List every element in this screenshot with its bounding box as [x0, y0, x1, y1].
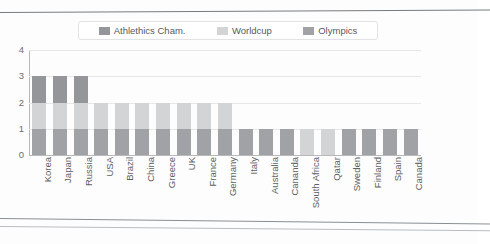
legend-swatch-icon [217, 27, 228, 35]
bar-segment[interactable] [94, 129, 108, 155]
page-rule-top [0, 10, 490, 13]
bar-slot[interactable] [29, 50, 50, 155]
stacked-bar[interactable] [362, 129, 376, 155]
bar-segment[interactable] [135, 103, 149, 129]
bar-segment[interactable] [135, 129, 149, 155]
bar-segment[interactable] [74, 76, 88, 102]
bar-segment[interactable] [53, 76, 67, 102]
bar-segment[interactable] [53, 129, 67, 155]
bar-segment[interactable] [259, 129, 273, 155]
stacked-bar[interactable] [300, 129, 314, 155]
legend-label: Athlethics Cham. [114, 26, 186, 36]
bar-segment[interactable] [74, 103, 88, 129]
stacked-bar[interactable] [239, 129, 253, 155]
bar-slot[interactable] [173, 50, 194, 155]
stacked-bar[interactable] [383, 129, 397, 155]
bar-segment[interactable] [383, 129, 397, 155]
bar-series-group [29, 50, 421, 155]
bar-segment[interactable] [74, 129, 88, 155]
legend-entry[interactable]: Olympics [303, 26, 357, 36]
bar-segment[interactable] [321, 129, 335, 155]
legend-swatch-icon [99, 27, 110, 35]
legend-label: Worldcup [232, 26, 272, 36]
bar-segment[interactable] [197, 129, 211, 155]
bar-segment[interactable] [239, 129, 253, 155]
x-axis-label-slot: Canada [400, 157, 421, 217]
stacked-bar[interactable] [94, 103, 108, 156]
bar-segment[interactable] [404, 129, 418, 155]
bar-segment[interactable] [53, 103, 67, 129]
x-axis-label-slot: Italy [235, 157, 256, 217]
x-axis-label-slot: Australia [256, 157, 277, 217]
bar-slot[interactable] [297, 50, 318, 155]
bar-segment[interactable] [94, 103, 108, 129]
bar-segment[interactable] [115, 103, 129, 129]
x-axis-label-slot: Finland [359, 157, 380, 217]
stacked-bar[interactable] [135, 103, 149, 156]
stacked-bar[interactable] [404, 129, 418, 155]
bar-slot[interactable] [318, 50, 339, 155]
bar-slot[interactable] [194, 50, 215, 155]
y-axis-tick-label: 4 [19, 45, 24, 55]
bar-segment[interactable] [156, 129, 170, 155]
stacked-bar[interactable] [280, 129, 294, 155]
y-axis-tick-label: 2 [19, 98, 24, 108]
bar-segment[interactable] [32, 129, 46, 155]
legend-entry[interactable]: Worldcup [217, 26, 272, 36]
page-rule-bottom-secondary [0, 226, 490, 231]
plot-area: 01234 [29, 50, 421, 155]
stacked-bar[interactable] [115, 103, 129, 156]
bar-slot[interactable] [338, 50, 359, 155]
bar-segment[interactable] [300, 129, 314, 155]
x-axis-label-slot: South Africa [297, 157, 318, 217]
bar-slot[interactable] [91, 50, 112, 155]
bar-slot[interactable] [400, 50, 421, 155]
bar-slot[interactable] [132, 50, 153, 155]
stacked-bar[interactable] [74, 76, 88, 155]
x-axis-label-slot: Spain [380, 157, 401, 217]
y-axis-tick-label: 0 [19, 150, 24, 160]
bar-segment[interactable] [362, 129, 376, 155]
stacked-bar[interactable] [53, 76, 67, 155]
stacked-bar[interactable] [342, 129, 356, 155]
bar-segment[interactable] [115, 129, 129, 155]
stacked-bar[interactable] [259, 129, 273, 155]
stacked-bar[interactable] [177, 103, 191, 156]
bar-segment[interactable] [156, 103, 170, 129]
legend-entry[interactable]: Athlethics Cham. [99, 26, 186, 36]
stacked-bar[interactable] [218, 103, 232, 156]
bar-segment[interactable] [218, 103, 232, 129]
x-axis-label-slot: Russia [70, 157, 91, 217]
y-axis-tick-label: 3 [19, 72, 24, 82]
stacked-bar[interactable] [156, 103, 170, 156]
x-axis-label-slot: France [194, 157, 215, 217]
bar-segment[interactable] [32, 103, 46, 129]
bar-slot[interactable] [153, 50, 174, 155]
bar-slot[interactable] [215, 50, 236, 155]
chart-legend: Athlethics Cham.WorldcupOlympics [78, 21, 378, 40]
bar-slot[interactable] [277, 50, 298, 155]
bar-slot[interactable] [359, 50, 380, 155]
bar-segment[interactable] [177, 129, 191, 155]
bar-slot[interactable] [70, 50, 91, 155]
bar-segment[interactable] [197, 103, 211, 129]
legend-swatch-icon [303, 27, 314, 35]
stacked-bar[interactable] [197, 103, 211, 156]
bar-slot[interactable] [380, 50, 401, 155]
bar-segment[interactable] [32, 76, 46, 102]
bar-slot[interactable] [50, 50, 71, 155]
bar-slot[interactable] [235, 50, 256, 155]
x-axis-label-slot: Qatar [318, 157, 339, 217]
bar-segment[interactable] [280, 129, 294, 155]
x-axis-label-slot: China [132, 157, 153, 217]
bar-segment[interactable] [218, 129, 232, 155]
stacked-bar[interactable] [321, 129, 335, 155]
bar-slot[interactable] [256, 50, 277, 155]
bar-segment[interactable] [342, 129, 356, 155]
legend-label: Olympics [318, 26, 357, 36]
x-axis-labels: KoreaJapanRussiaUSABrazilChinaGreeceUKFr… [29, 157, 421, 217]
bar-slot[interactable] [112, 50, 133, 155]
bar-segment[interactable] [177, 103, 191, 129]
stacked-bar[interactable] [32, 76, 46, 155]
